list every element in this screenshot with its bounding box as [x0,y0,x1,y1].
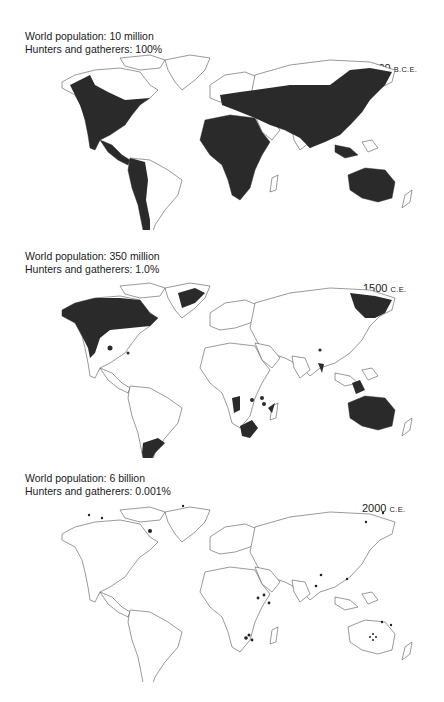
map-panel-2000-ce: World population: 6 billion Hunters and … [0,0,444,702]
world-map-2000-ce [0,482,444,682]
